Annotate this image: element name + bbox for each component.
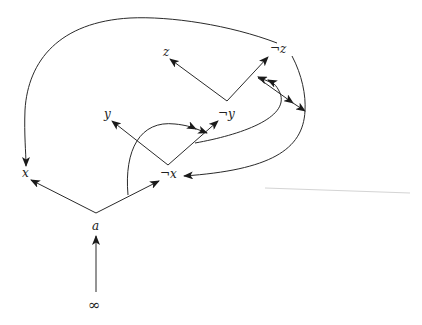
node-label-a: a <box>92 219 99 233</box>
edge-not-z-to-not-x <box>184 56 305 176</box>
node-label-not-z: ¬z <box>270 42 287 56</box>
node-label-x: x <box>22 166 29 180</box>
node-label-y: y <box>103 107 111 121</box>
edge-not-z-to-x-loop <box>25 18 277 166</box>
edge-a-to-x <box>31 180 96 213</box>
graph-diagram: a ∞ x ¬x y ¬y z ¬z <box>0 0 422 325</box>
edge-curve-to-not-y <box>127 124 196 195</box>
node-label-not-y: ¬y <box>218 107 235 121</box>
node-label-z: z <box>162 45 170 59</box>
edge-not-y-to-z <box>170 59 227 101</box>
node-label-not-x: ¬x <box>160 167 177 181</box>
edge-curve-to-not-y-second-arrow <box>194 128 207 133</box>
scan-artifact-line <box>265 188 410 193</box>
node-label-infinity: ∞ <box>88 296 101 314</box>
edge-not-x-to-y <box>112 121 168 165</box>
edge-to-right-point <box>258 78 293 103</box>
edge-to-right-point-second-arrow <box>290 101 305 111</box>
